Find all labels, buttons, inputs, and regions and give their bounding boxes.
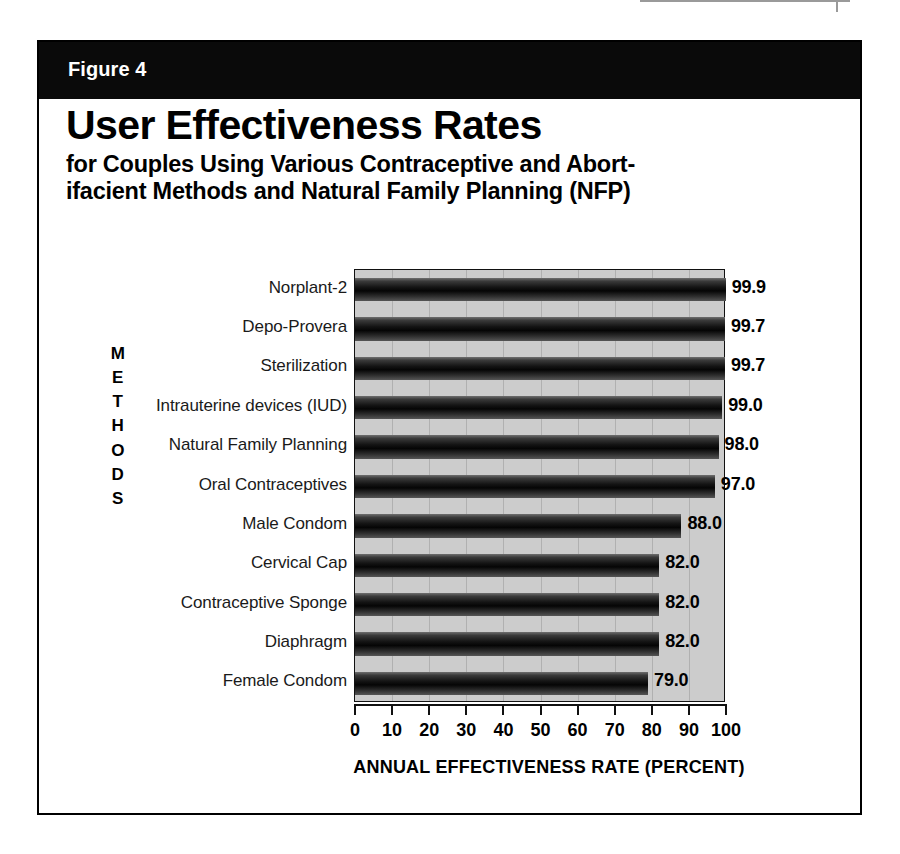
bar bbox=[355, 357, 725, 380]
x-axis-tick-label: 50 bbox=[530, 720, 550, 741]
bar-row bbox=[355, 396, 724, 419]
scan-artifact-tick bbox=[836, 0, 838, 12]
y-axis-title-letter: O bbox=[105, 439, 131, 463]
bar-row bbox=[355, 357, 724, 380]
y-axis-category-labels: Norplant-2Depo-ProveraSterilizationIntra… bbox=[149, 269, 347, 702]
y-axis-title-letter: T bbox=[105, 390, 131, 414]
bar bbox=[355, 396, 722, 419]
x-axis-tick-label: 60 bbox=[568, 720, 588, 741]
scan-artifact-line bbox=[640, 0, 850, 2]
bar-row bbox=[355, 435, 724, 458]
bar bbox=[355, 475, 715, 498]
bar-row bbox=[355, 514, 724, 537]
y-axis-category-label: Depo-Provera bbox=[242, 317, 347, 337]
bar-row bbox=[355, 593, 724, 616]
y-axis-title-letter: D bbox=[105, 463, 131, 487]
bar bbox=[355, 514, 681, 537]
bar bbox=[355, 554, 659, 577]
bar-value-label: 99.9 bbox=[732, 277, 766, 298]
bar bbox=[355, 435, 719, 458]
y-axis-title-letter: S bbox=[105, 487, 131, 511]
y-axis-category-label: Female Condom bbox=[223, 671, 347, 691]
y-axis-category-label: Male Condom bbox=[242, 514, 347, 534]
bar bbox=[355, 278, 726, 301]
bar-value-label: 99.7 bbox=[731, 316, 765, 337]
x-axis-tick bbox=[577, 704, 579, 715]
x-axis-tick bbox=[428, 704, 430, 715]
bar bbox=[355, 672, 648, 695]
x-axis-tick-label: 40 bbox=[493, 720, 513, 741]
bar-row bbox=[355, 632, 724, 655]
bar-value-label: 99.0 bbox=[728, 395, 762, 416]
y-axis-title-letter: E bbox=[105, 366, 131, 390]
y-axis-category-label: Norplant-2 bbox=[269, 278, 347, 298]
x-axis-tick-label: 80 bbox=[642, 720, 662, 741]
x-axis-tick-label: 0 bbox=[350, 720, 360, 741]
bar bbox=[355, 317, 725, 340]
y-axis-title: METHODS bbox=[105, 342, 131, 511]
x-axis-tick-label: 90 bbox=[679, 720, 699, 741]
x-axis-tick bbox=[688, 704, 690, 715]
bar-value-label: 98.0 bbox=[725, 434, 759, 455]
y-axis-category-label: Diaphragm bbox=[265, 632, 347, 652]
x-axis-tick-label: 100 bbox=[711, 720, 741, 741]
y-axis-title-letter: H bbox=[105, 414, 131, 438]
bar bbox=[355, 632, 659, 655]
figure-frame: Figure 4 User Effectiveness Rates for Co… bbox=[37, 40, 862, 815]
bar-row bbox=[355, 475, 724, 498]
chart-region: METHODS Norplant-2Depo-ProveraSterilizat… bbox=[39, 42, 860, 813]
x-axis-tick bbox=[725, 704, 727, 715]
x-axis-title: ANNUAL EFFECTIVENESS RATE (PERCENT) bbox=[209, 757, 889, 778]
bar-row bbox=[355, 672, 724, 695]
x-axis-tick bbox=[354, 704, 356, 715]
bar bbox=[355, 593, 659, 616]
bar-row bbox=[355, 317, 724, 340]
y-axis-category-label: Sterilization bbox=[260, 356, 347, 376]
y-axis-category-label: Intrauterine devices (IUD) bbox=[156, 396, 347, 416]
x-axis-tick bbox=[540, 704, 542, 715]
x-axis-tick-label: 70 bbox=[605, 720, 625, 741]
x-axis-tick bbox=[465, 704, 467, 715]
y-axis-category-label: Cervical Cap bbox=[251, 553, 347, 573]
x-axis-tick-label: 20 bbox=[419, 720, 439, 741]
x-axis-tick bbox=[502, 704, 504, 715]
y-axis-category-label: Oral Contraceptives bbox=[199, 475, 347, 495]
bar-row bbox=[355, 554, 724, 577]
x-axis-tick bbox=[614, 704, 616, 715]
bar-value-label: 97.0 bbox=[721, 474, 755, 495]
x-axis-tick-label: 30 bbox=[456, 720, 476, 741]
plot-area bbox=[354, 269, 725, 702]
x-axis-tick bbox=[391, 704, 393, 715]
bar-row bbox=[355, 278, 724, 301]
y-axis-category-label: Natural Family Planning bbox=[169, 435, 347, 455]
x-axis-tick-label: 10 bbox=[382, 720, 402, 741]
y-axis-category-label: Contraceptive Sponge bbox=[181, 593, 347, 613]
x-axis-tick bbox=[651, 704, 653, 715]
y-axis-title-letter: M bbox=[105, 342, 131, 366]
bar-value-label: 99.7 bbox=[731, 355, 765, 376]
